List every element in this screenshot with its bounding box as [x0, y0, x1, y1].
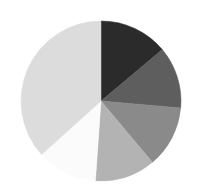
pie-slice-group	[21, 21, 181, 181]
pie-chart-canvas	[0, 0, 203, 195]
pie-chart-figure	[0, 0, 203, 195]
